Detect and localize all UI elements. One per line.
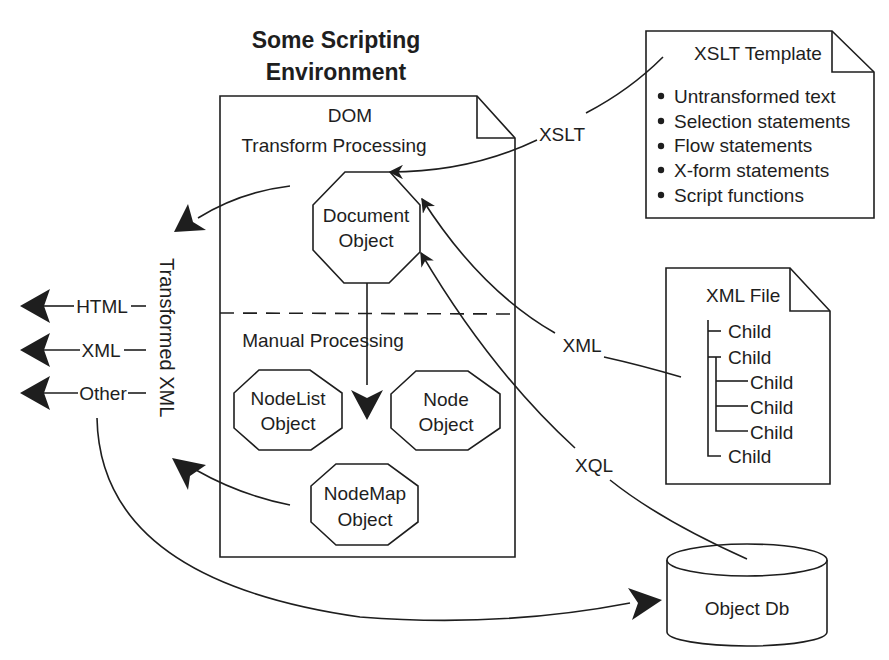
tree-node: Child — [728, 347, 771, 368]
output-html: HTML — [20, 289, 146, 323]
xml-file-page: XML File Child Child Child Child Child C… — [666, 268, 830, 484]
diagram-title: Some Scripting Environment — [252, 27, 421, 85]
list-item: X-form statements — [674, 160, 829, 181]
output-label-html: HTML — [76, 296, 128, 317]
arrowhead-icon — [174, 204, 206, 232]
xql-connector-label: XQL — [575, 455, 613, 476]
list-item: Script functions — [674, 185, 804, 206]
svg-text:Object: Object — [339, 230, 395, 251]
right-arrowhead-icon — [628, 588, 662, 620]
document-object-node: Document Object — [313, 172, 420, 283]
transform-processing-label: Transform Processing — [241, 135, 426, 156]
list-item: Selection statements — [674, 111, 850, 132]
output-other: Other — [20, 376, 146, 410]
manual-processing-label: Manual Processing — [242, 330, 404, 351]
xslt-template-title: XSLT Template — [694, 43, 822, 64]
object-db-cylinder: Object Db — [667, 544, 827, 646]
output-label-other: Other — [79, 383, 127, 404]
svg-text:Node: Node — [423, 389, 468, 410]
xslt-connector-label: XSLT — [539, 124, 586, 145]
output-label-xml: XML — [81, 340, 120, 361]
arrowhead-icon — [172, 458, 206, 490]
object-db-label: Object Db — [705, 598, 789, 619]
tree-node: Child — [750, 372, 793, 393]
svg-text:NodeList: NodeList — [251, 388, 327, 409]
title-line-2: Environment — [266, 59, 407, 85]
dom-heading: DOM — [328, 105, 372, 126]
xslt-template-page: XSLT Template Untransformed text Selecti… — [646, 31, 874, 218]
svg-text:Object: Object — [261, 413, 317, 434]
tree-node: Child — [750, 422, 793, 443]
svg-text:NodeMap: NodeMap — [324, 483, 406, 504]
tree-node: Child — [750, 397, 793, 418]
nodemap-object-node: NodeMap Object — [311, 464, 418, 545]
svg-text:Object: Object — [338, 509, 394, 530]
tree-node: Child — [728, 446, 771, 467]
node-object-node: Node Object — [391, 371, 500, 450]
title-line-1: Some Scripting — [252, 27, 421, 53]
list-item: Untransformed text — [674, 86, 836, 107]
xml-connector-label: XML — [562, 335, 601, 356]
transformed-xml-label: Transformed XML — [156, 258, 178, 417]
svg-text:Document: Document — [323, 205, 410, 226]
svg-text:Object: Object — [419, 414, 475, 435]
diagram-canvas: Some Scripting Environment DOM Transform… — [0, 0, 889, 660]
output-xml: XML — [20, 333, 146, 367]
list-item: Flow statements — [674, 135, 812, 156]
xml-file-title: XML File — [706, 285, 780, 306]
nodelist-object-node: NodeList Object — [234, 370, 342, 450]
tree-node: Child — [728, 321, 771, 342]
